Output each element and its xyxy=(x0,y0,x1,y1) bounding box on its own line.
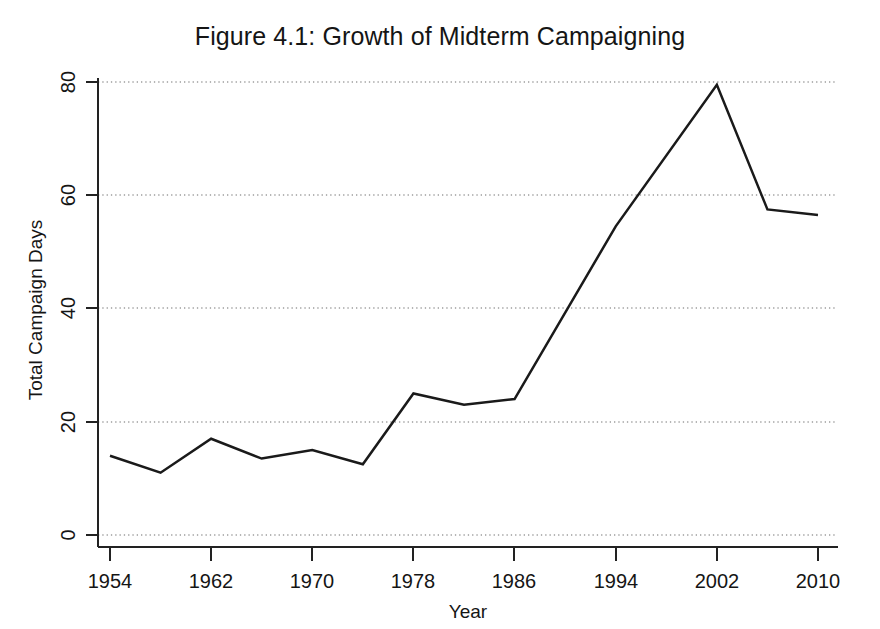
x-tick-label-1954: 1954 xyxy=(88,570,133,592)
x-tick-marks xyxy=(110,547,818,561)
y-tick-label-20: 20 xyxy=(57,411,79,433)
x-tick-label-2002: 2002 xyxy=(695,570,740,592)
x-tick-label-1970: 1970 xyxy=(290,570,335,592)
x-tick-label-2010: 2010 xyxy=(796,570,841,592)
gridlines xyxy=(98,82,836,535)
series-line-total-campaign-days xyxy=(110,85,818,473)
y-tick-labels: 80 60 40 20 0 xyxy=(57,71,79,541)
y-axis-title: Total Campaign Days xyxy=(25,220,46,401)
line-chart-plot: 80 60 40 20 0 1954 1962 1970 1978 1986 1… xyxy=(0,0,880,629)
x-tick-label-1994: 1994 xyxy=(594,570,639,592)
x-tick-label-1986: 1986 xyxy=(492,570,537,592)
figure-container: Figure 4.1: Growth of Midterm Campaignin… xyxy=(0,0,880,629)
y-tick-label-40: 40 xyxy=(57,297,79,319)
x-tick-label-1978: 1978 xyxy=(391,570,436,592)
y-tick-marks xyxy=(86,82,98,535)
x-tick-labels: 1954 1962 1970 1978 1986 1994 2002 2010 xyxy=(88,570,841,592)
x-tick-label-1962: 1962 xyxy=(189,570,234,592)
y-tick-label-60: 60 xyxy=(57,184,79,206)
y-tick-label-80: 80 xyxy=(57,71,79,93)
y-tick-label-0: 0 xyxy=(57,529,79,540)
x-axis-title: Year xyxy=(449,601,488,622)
